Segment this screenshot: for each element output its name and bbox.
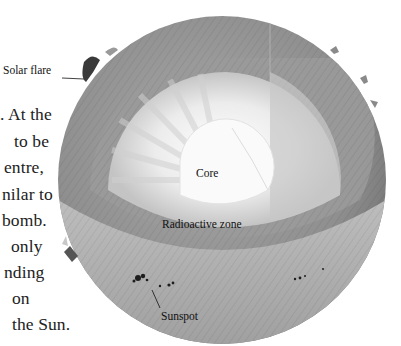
sun-diagram-page: Solar flare Core Radioactive zone Sunspo… bbox=[0, 0, 401, 346]
body-line: on bbox=[12, 288, 30, 309]
body-line: bomb. bbox=[2, 210, 47, 231]
body-line: . At the bbox=[0, 104, 52, 125]
body-line: nding bbox=[4, 262, 44, 283]
label-core: Core bbox=[196, 167, 218, 179]
body-line: nilar to bbox=[2, 184, 53, 205]
body-line: the Sun. bbox=[12, 314, 70, 335]
label-solar-flare: Solar flare bbox=[3, 64, 51, 76]
body-line: entre, bbox=[4, 157, 44, 178]
label-radioactive-zone: Radioactive zone bbox=[162, 218, 242, 230]
solar-flare-leader-line bbox=[62, 78, 84, 79]
label-sunspot: Sunspot bbox=[161, 310, 198, 322]
body-line: only bbox=[11, 236, 43, 257]
body-line: to be bbox=[14, 131, 49, 152]
